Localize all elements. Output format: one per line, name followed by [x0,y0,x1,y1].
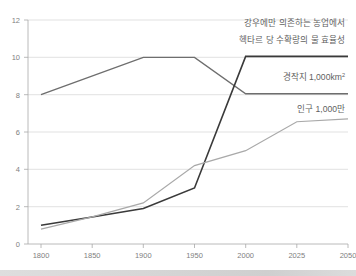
line-chart: 12 10 8 6 4 2 0 1800 1850 1900 1950 2000… [0,0,356,276]
x-tick-label-2000: 2000 [237,251,254,260]
x-tick-label-1900: 1900 [135,251,152,260]
data-series [41,56,348,229]
y-tick-label-10: 10 [12,53,20,62]
x-tick-labels: 1800 1850 1900 1950 2000 2025 2050 [33,251,356,260]
annotation-water-efficiency-line1: 강우에만 의존하는 농업에서 [244,18,345,28]
y-tick-label-12: 12 [12,16,20,25]
y-tick-labels: 12 10 8 6 4 2 0 [12,16,20,249]
x-tick-label-1950: 1950 [186,251,203,260]
series-line-population [41,119,348,229]
y-tick-label-6: 6 [16,128,20,137]
x-tick-label-2050: 2050 [340,251,356,260]
x-tick-label-1800: 1800 [33,251,50,260]
x-tick-label-2025: 2025 [288,251,305,260]
chart-canvas: 12 10 8 6 4 2 0 1800 1850 1900 1950 2000… [0,0,356,276]
y-tick-marks [24,20,28,244]
annotation-water-efficiency-line2: 헥타르 당 수확량의 물 효율성 [239,34,345,45]
y-tick-label-8: 8 [16,91,20,100]
series-annotations: 강우에만 의존하는 농업에서 헥타르 당 수확량의 물 효율성 경작지 1,00… [239,18,345,114]
annotation-population: 인구 1,000만 [297,104,345,114]
bottom-scrollbar-strip [0,270,356,276]
annotation-cultivated-land: 경작지 1,000km2 [283,71,345,82]
x-tick-marks [41,244,348,248]
y-tick-label-2: 2 [16,203,20,212]
x-tick-label-1850: 1850 [84,251,101,260]
annotation-cultivated-land-text: 경작지 1,000km [283,71,342,82]
y-tick-label-0: 0 [16,240,20,249]
y-tick-label-4: 4 [16,165,20,174]
annotation-cultivated-land-superscript: 2 [342,72,345,78]
